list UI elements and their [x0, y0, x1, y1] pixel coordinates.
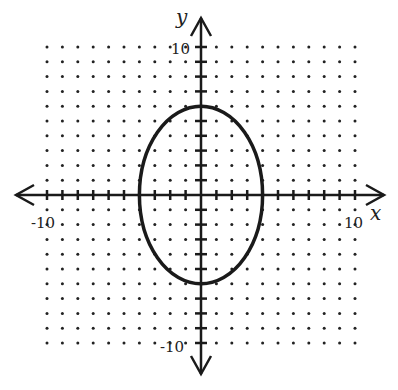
y-min-label: -10	[160, 338, 184, 356]
y-max-label: 10	[171, 40, 190, 58]
y-axis-label: y	[175, 5, 188, 29]
axes	[16, 18, 384, 374]
x-axis-label: x	[370, 201, 381, 225]
coordinate-plane: x y -10 10 10 -10	[0, 0, 398, 390]
x-max-label: 10	[344, 214, 363, 232]
x-min-label: -10	[31, 214, 55, 232]
